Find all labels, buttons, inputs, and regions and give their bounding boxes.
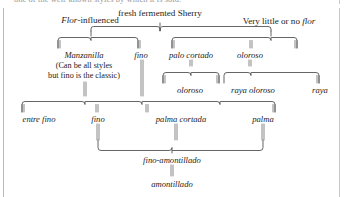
edge-oloroso-down xyxy=(249,60,251,66)
edge-raya-oloroso-stem xyxy=(217,76,219,84)
edge-raya-stem xyxy=(317,76,319,84)
node-manzanilla: Manzanilla (Can be all styles but fino i… xyxy=(48,51,120,80)
node-label-noflor-italic: flor xyxy=(302,16,315,26)
edge-palma-cortada-stem xyxy=(146,105,148,113)
node-label-root: fresh fermented Sherry xyxy=(118,8,202,18)
node-raya-oloroso: raya oloroso xyxy=(231,86,275,96)
edge-entre-fino-stem xyxy=(22,105,24,113)
edge-fino-down xyxy=(141,60,143,96)
node-label-manzanilla-note-1: (Can be all styles xyxy=(48,61,120,71)
node-oloroso-2: oloroso xyxy=(177,86,203,96)
node-palma-cortada: palma cortada xyxy=(156,115,206,125)
node-amontillado: amontillado xyxy=(151,180,193,190)
edge-noflor-bracket xyxy=(172,38,297,49)
edge-fino-amontillado-down xyxy=(171,165,173,176)
connector-wires xyxy=(0,0,344,197)
node-flor-influenced: Flor-influenced xyxy=(61,16,119,26)
edge-fino-stem xyxy=(138,41,140,49)
node-very-little-or-no-flor: Very little or no flor xyxy=(243,17,316,27)
node-fino-amontillado: fino-amontillado xyxy=(143,156,201,166)
edge-manzanilla-down xyxy=(84,82,86,96)
edge-fino2-stem xyxy=(96,105,98,113)
edge-palo-cortado-stem xyxy=(172,41,174,49)
edge-level4-bracket xyxy=(22,102,275,113)
edge-palma-stem xyxy=(273,105,275,113)
edge-merge-bracket xyxy=(98,140,263,151)
node-palma: palma xyxy=(252,115,273,125)
node-fresh-fermented-sherry: fresh fermented Sherry xyxy=(118,9,202,19)
node-palo-cortado: palo cortado xyxy=(169,51,213,61)
edge-palma-down xyxy=(262,124,264,140)
node-fino-2: fino xyxy=(91,115,104,125)
node-label-manzanilla-note-2: but fino is the classic) xyxy=(48,71,120,81)
edge-flor-bracket xyxy=(58,38,138,49)
diagram-page: one of the well-known styles by which it… xyxy=(0,0,344,197)
node-label-manzanilla: Manzanilla xyxy=(48,51,120,61)
edge-oloroso2-stem xyxy=(163,76,165,84)
node-fino: fino xyxy=(134,51,147,61)
node-oloroso: oloroso xyxy=(237,51,263,61)
edge-palo-cortado-down xyxy=(190,60,192,66)
node-entre-fino: entre fino xyxy=(23,115,56,125)
edge-oloroso-right-stem xyxy=(295,41,297,49)
node-label-flor-italic: Flor xyxy=(61,15,77,25)
edge-manzanilla-stem xyxy=(58,41,60,49)
edge-palma-cortada-down xyxy=(175,124,177,140)
node-label-noflor-lead: Very little or no xyxy=(243,16,303,26)
edge-fino2-down xyxy=(97,124,99,140)
node-label-flor-tail: -influenced xyxy=(77,15,118,25)
edge-oloroso-stem xyxy=(250,41,252,49)
edge-level3-left-bracket xyxy=(163,73,219,84)
edge-root-to-level1 xyxy=(91,27,271,32)
node-raya: raya xyxy=(312,86,328,96)
edge-level3-right-bracket xyxy=(224,73,319,84)
